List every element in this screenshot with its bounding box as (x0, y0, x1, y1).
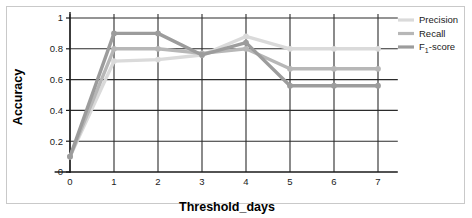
data-point (375, 46, 381, 52)
y-tick-label: 0.2 (50, 136, 63, 147)
x-tick-label: 4 (243, 176, 248, 187)
x-tick-label: 2 (155, 176, 160, 187)
data-point (375, 66, 381, 72)
x-tick-label: 1 (111, 176, 116, 187)
grid-lines-horizontal (70, 18, 398, 141)
x-axis-ticks: 01234567 (67, 176, 380, 187)
legend-item: Precision (398, 14, 458, 25)
data-point (375, 83, 381, 89)
x-axis-title: Threshold_days (179, 200, 275, 214)
y-tick-label: 0 (58, 166, 63, 177)
x-tick-label: 6 (331, 176, 336, 187)
y-tick-label: 1 (58, 12, 63, 23)
data-point (111, 46, 117, 52)
line-chart: 00.20.40.60.81 01234567 Threshold_days A… (0, 0, 472, 218)
data-point (243, 40, 249, 46)
data-point (199, 52, 205, 58)
x-tick-label: 3 (199, 176, 204, 187)
y-axis-ticks: 00.20.40.60.81 (50, 12, 70, 177)
data-point (155, 57, 161, 63)
legend-item: F1-score (398, 41, 455, 53)
data-point (331, 66, 337, 72)
chart-legend: PrecisionRecallF1-score (398, 14, 458, 53)
axis-lines (55, 12, 398, 173)
data-point (287, 83, 293, 89)
data-point (111, 31, 117, 37)
chart-figure: 00.20.40.60.81 01234567 Threshold_days A… (0, 0, 472, 218)
data-point (67, 154, 73, 160)
legend-label: F1-score (419, 41, 455, 53)
data-point (155, 46, 161, 52)
y-tick-label: 0.4 (50, 105, 63, 116)
legend-label: Recall (419, 28, 445, 39)
series-line (70, 49, 378, 157)
legend-item: Recall (398, 28, 445, 39)
y-tick-label: 0.8 (50, 43, 63, 54)
y-tick-label: 0.6 (50, 74, 63, 85)
data-point (111, 58, 117, 64)
x-tick-label: 5 (287, 176, 292, 187)
data-point (331, 83, 337, 89)
x-tick-label: 0 (67, 176, 72, 187)
y-axis-title: Accuracy (11, 69, 25, 125)
legend-label: Precision (419, 14, 458, 25)
x-tick-label: 7 (375, 176, 380, 187)
data-point (155, 31, 161, 37)
grid-lines-vertical (70, 14, 378, 172)
data-point (287, 46, 293, 52)
series-line (70, 36, 378, 156)
data-point (331, 46, 337, 52)
data-point (243, 34, 249, 40)
data-point (287, 66, 293, 72)
